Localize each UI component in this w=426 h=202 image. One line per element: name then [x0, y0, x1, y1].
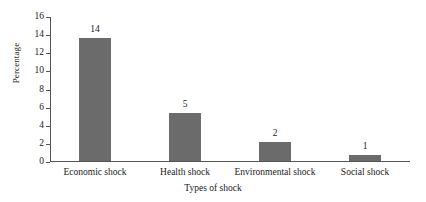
y-tick-label: 10 — [22, 65, 44, 76]
y-tick-label: 0 — [22, 156, 44, 167]
y-axis-title: Percentage — [11, 23, 21, 103]
bar[interactable] — [79, 38, 111, 161]
y-tick-mark — [46, 162, 50, 163]
bar-group: 1 — [320, 17, 410, 161]
bar-value-label: 1 — [363, 141, 368, 152]
x-category-label: Environmental shock — [235, 166, 316, 178]
bar-group: 14 — [50, 17, 140, 161]
y-tick-label: 6 — [22, 102, 44, 113]
y-tick-label: 2 — [22, 138, 44, 149]
bar-group: 2 — [230, 17, 320, 161]
bar-series: 14521 — [50, 17, 410, 161]
x-axis-line — [50, 161, 410, 162]
x-category-label: Social shock — [341, 166, 389, 178]
x-axis-category-labels: Economic shockHealth shockEnvironmental … — [50, 166, 410, 180]
y-tick-label: 4 — [22, 120, 44, 131]
bar-group: 5 — [140, 17, 230, 161]
y-tick-label: 8 — [22, 84, 44, 95]
bar-chart-figure: Percentage 0246810121416 14521 Economic … — [0, 0, 426, 202]
x-category-label: Economic shock — [63, 166, 126, 178]
bar-value-label: 5 — [183, 99, 188, 110]
y-tick-label: 16 — [22, 11, 44, 22]
bar[interactable] — [259, 142, 291, 161]
bar-value-label: 2 — [273, 128, 278, 139]
y-tick-label: 12 — [22, 47, 44, 58]
y-tick-label: 14 — [22, 29, 44, 40]
bar[interactable] — [169, 113, 201, 161]
plot-area: 0246810121416 14521 — [50, 17, 410, 162]
x-category-label: Health shock — [160, 166, 210, 178]
x-axis-title: Types of shock — [0, 182, 426, 194]
bar[interactable] — [349, 155, 381, 161]
bar-value-label: 14 — [90, 24, 100, 35]
